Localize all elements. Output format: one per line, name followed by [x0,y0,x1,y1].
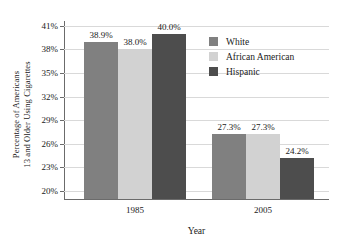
y-axis-tick-mark [60,49,64,50]
legend-item: Hispanic [209,64,294,79]
y-axis-tick-label: 20% [42,186,59,196]
legend-label: White [226,37,249,47]
bar [246,134,280,199]
legend-swatch [209,37,218,46]
y-axis-tick-mark [60,97,64,98]
bar-value-label: 27.3% [251,122,274,132]
y-axis-title-line1: Percentage of Americans [11,22,22,208]
y-axis-line [64,21,65,200]
y-axis-tick-label: 35% [42,68,59,78]
y-axis-tick-label: 26% [42,139,59,149]
y-axis-tick-label: 23% [42,162,59,172]
bar-value-label: 27.3% [217,122,240,132]
legend-label: Hispanic [226,67,260,77]
y-axis-title: Percentage of Americans 13 and Older Usi… [11,22,32,208]
bar [118,49,152,199]
y-axis-tick-mark [60,73,64,74]
y-axis-tick-label: 41% [42,21,59,31]
bar [84,42,118,199]
x-axis-title: Year [64,226,329,236]
y-axis-tick-label: 38% [42,44,59,54]
x-axis-category-label: 2005 [254,205,272,215]
y-axis-tick-mark [60,26,64,27]
bar [152,34,186,199]
legend: WhiteAfrican AmericanHispanic [209,34,294,79]
bar-value-label: 24.2% [285,146,308,156]
y-axis-tick-label: 32% [42,92,59,102]
bar [212,134,246,199]
gridline [64,26,329,27]
legend-label: African American [226,52,294,62]
bar [280,158,314,199]
y-axis-tick-mark [60,191,64,192]
x-axis-line [64,199,329,200]
y-axis-tick-mark [60,120,64,121]
y-axis-tick-label: 29% [42,115,59,125]
legend-swatch [209,67,218,76]
y-axis-tick-mark [60,167,64,168]
legend-item: White [209,34,294,49]
x-axis-category-label: 1985 [126,205,144,215]
bar-value-label: 40.0% [157,22,180,32]
y-axis-title-line2: 13 and Older Using Cigarettes [21,22,32,208]
bar-chart: Percentage of Americans 13 and Older Usi… [0,0,337,245]
y-axis-tick-mark [60,144,64,145]
legend-swatch [209,52,218,61]
bar-value-label: 38.9% [89,30,112,40]
legend-item: African American [209,49,294,64]
bar-value-label: 38.0% [123,37,146,47]
